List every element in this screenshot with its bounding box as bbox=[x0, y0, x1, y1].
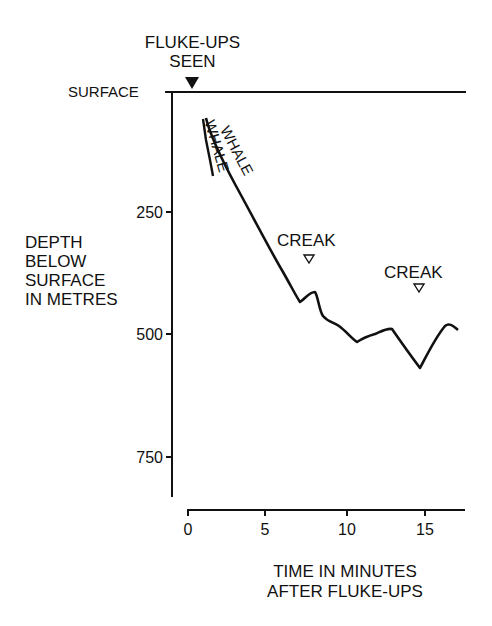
x-tick-label-5: 5 bbox=[250, 520, 280, 539]
surface-label: SURFACE bbox=[68, 82, 139, 101]
creak-marker-icon-1 bbox=[304, 255, 314, 263]
y-axis-label-4: IN METRES bbox=[25, 290, 118, 309]
y-tick-label-750: 750 bbox=[133, 448, 163, 467]
x-tick-label-15: 15 bbox=[410, 520, 440, 539]
creak-label-1: CREAK bbox=[277, 231, 336, 250]
x-tick-label-0: 0 bbox=[173, 520, 203, 539]
creak-label-2: CREAK bbox=[384, 263, 443, 282]
x-axis-label-2: AFTER FLUKE-UPS bbox=[240, 582, 450, 601]
fluke-ups-label-1: FLUKE-UPS bbox=[140, 33, 245, 52]
creak-marker-icon-2 bbox=[414, 284, 424, 292]
y-tick-label-250: 250 bbox=[133, 203, 163, 222]
x-tick-label-10: 10 bbox=[332, 520, 362, 539]
y-axis-label-2: BELOW bbox=[25, 252, 86, 271]
fluke-ups-label-2: SEEN bbox=[140, 52, 245, 71]
x-axis-label-1: TIME IN MINUTES bbox=[240, 562, 450, 581]
fluke-ups-marker-icon bbox=[185, 77, 199, 89]
y-tick-label-500: 500 bbox=[133, 325, 163, 344]
y-axis-label-3: SURFACE bbox=[25, 271, 105, 290]
y-axis-label-1: DEPTH bbox=[25, 233, 83, 252]
